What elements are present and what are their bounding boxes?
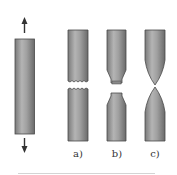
specimen-b-cup-cone: b) bbox=[107, 30, 126, 159]
label-b: b) bbox=[112, 148, 122, 159]
specimen-a-bottom bbox=[68, 88, 88, 141]
specimen-c-top bbox=[145, 30, 165, 85]
specimen-c-ductile: c) bbox=[145, 30, 165, 159]
specimen-b-top bbox=[107, 30, 126, 83]
specimen-a-top bbox=[68, 30, 88, 82]
specimen-bar bbox=[15, 39, 35, 134]
specimen-b-bottom bbox=[107, 93, 126, 141]
specimen-a-brittle: a) bbox=[68, 30, 88, 159]
fracture-diagram: a) b) c) bbox=[0, 0, 177, 175]
tension-arrow-up-icon bbox=[22, 17, 28, 33]
original-specimen bbox=[15, 17, 35, 153]
label-a: a) bbox=[73, 148, 83, 159]
label-c: c) bbox=[150, 148, 160, 159]
specimen-c-bottom bbox=[145, 87, 165, 141]
specimen-b-cup bbox=[112, 81, 121, 84]
tension-arrow-down-icon bbox=[22, 138, 28, 153]
